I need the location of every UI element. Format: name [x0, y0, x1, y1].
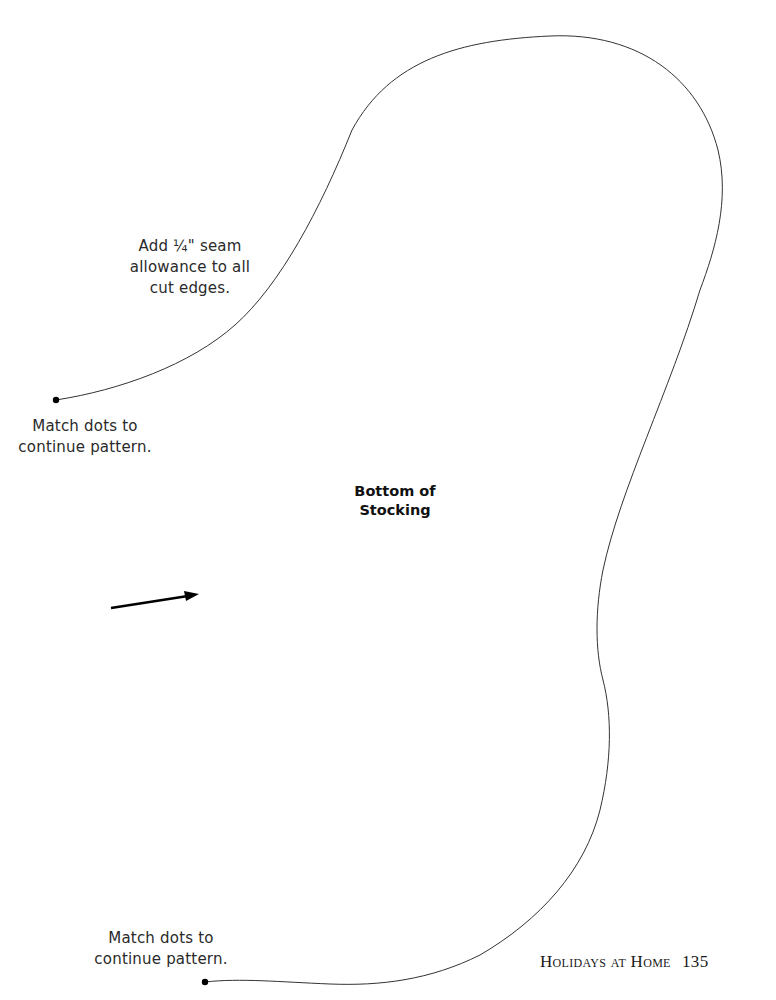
page-number: 135	[682, 952, 708, 971]
seam-note-line-3: cut edges.	[100, 278, 280, 299]
page-footer: Holidays at Home 135	[540, 952, 770, 972]
match-bottom-line-1: Match dots to	[80, 928, 242, 949]
match-dot-top	[53, 397, 59, 403]
piece-label-line-2: Stocking	[340, 501, 450, 520]
match-dots-note-bottom: Match dots to continue pattern.	[80, 928, 242, 970]
grainline-arrow-icon	[111, 591, 199, 608]
pattern-piece-label: Bottom of Stocking	[340, 482, 450, 520]
match-dots-note-top: Match dots to continue pattern.	[0, 416, 170, 458]
match-bottom-line-2: continue pattern.	[80, 949, 242, 970]
match-dot-bottom	[202, 979, 208, 985]
seam-allowance-note: Add ¼" seam allowance to all cut edges.	[100, 236, 280, 299]
book-title: Holidays at Home	[540, 952, 671, 971]
seam-note-line-1: Add ¼" seam	[100, 236, 280, 257]
match-top-line-2: continue pattern.	[0, 437, 170, 458]
seam-note-line-2: allowance to all	[100, 257, 280, 278]
piece-label-line-1: Bottom of	[340, 482, 450, 501]
match-top-line-1: Match dots to	[0, 416, 170, 437]
